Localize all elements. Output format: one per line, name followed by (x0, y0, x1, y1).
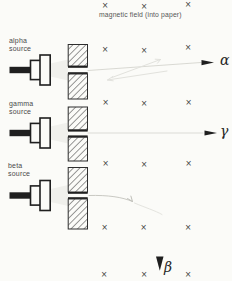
beta-arrow-icon (156, 257, 164, 271)
gamma-source-label-line1: gamma (9, 100, 33, 108)
radiation-magnetic-field-diagram: magnetic field (into paper) ××××××××××××… (0, 0, 232, 281)
gamma-arrow-icon (205, 130, 218, 135)
field-mark: × (102, 45, 109, 54)
field-mark: × (185, 223, 192, 232)
beta-symbol: β (164, 259, 172, 275)
field-mark: × (141, 160, 148, 169)
beta-collimator (68, 168, 88, 230)
alpha-source-label-line1: alpha (9, 37, 31, 45)
field-mark: × (101, 223, 108, 232)
field-mark: × (141, 2, 148, 11)
alpha-path (88, 63, 201, 71)
gamma-source-label: gamma source (9, 100, 33, 116)
alpha-collimator (68, 45, 88, 100)
field-mark: × (185, 0, 192, 9)
field-mark: × (185, 43, 192, 52)
field-mark: × (185, 98, 192, 107)
alpha-source-label-line2: source (9, 45, 31, 53)
beta-source-label: beta source (8, 162, 30, 178)
source-beam-glow (51, 60, 69, 207)
alpha-symbol: α (220, 52, 229, 68)
beta-source-device (10, 181, 51, 211)
alpha-source-label: alpha source (9, 37, 31, 53)
field-mark: × (102, 1, 109, 10)
gamma-collimator (68, 107, 88, 161)
field-mark: × (141, 46, 148, 55)
diagram-artwork (0, 0, 232, 281)
beta-source-label-line2: source (8, 170, 30, 178)
beta-source-label-line1: beta (8, 162, 30, 170)
beta-path (89, 195, 162, 214)
gamma-source-label-line2: source (9, 108, 33, 116)
field-mark: × (185, 159, 192, 168)
field-mark: × (102, 98, 109, 107)
field-mark: × (101, 269, 108, 278)
pencil-sketch-alpha (108, 59, 168, 81)
field-mark: × (185, 269, 192, 278)
field-mark: × (140, 223, 147, 232)
magnetic-field-label: magnetic field (into paper) (99, 11, 182, 18)
alpha-arrow-icon (202, 60, 215, 65)
field-mark: × (141, 99, 148, 108)
field-mark: × (141, 269, 148, 278)
gamma-source-device (10, 118, 51, 148)
field-mark: × (102, 159, 109, 168)
alpha-source-device (10, 55, 51, 85)
gamma-symbol: γ (220, 123, 228, 139)
